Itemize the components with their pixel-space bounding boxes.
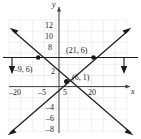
y-tick-neg4: –4 bbox=[46, 104, 54, 112]
coordinate-graph-figure: y x 12 10 8 2 –4 –6 –8 –20 –5 5 20 (–9, … bbox=[0, 0, 141, 139]
x-tick-neg5: –5 bbox=[38, 89, 46, 97]
y-tick-12: 12 bbox=[45, 22, 53, 30]
x-tick-20: 20 bbox=[88, 89, 96, 97]
y-tick-neg6: –6 bbox=[46, 115, 54, 123]
v-right-branch bbox=[8, 28, 132, 135]
y-tick-10: 10 bbox=[45, 33, 53, 41]
point-label-right: (21, 6) bbox=[66, 47, 87, 55]
marker-point-vertex bbox=[64, 79, 69, 84]
y-tick-2: 2 bbox=[51, 68, 55, 76]
x-axis bbox=[9, 85, 130, 89]
point-label-vertex: (6, 1) bbox=[72, 74, 89, 82]
x-tick-neg20: –20 bbox=[9, 89, 21, 97]
y-tick-neg8: –8 bbox=[46, 126, 54, 134]
marker-point-left bbox=[36, 55, 41, 60]
x-axis-label: x bbox=[131, 88, 135, 96]
arrow-down-on-line-right bbox=[122, 58, 127, 73]
x-tick-5: 5 bbox=[63, 89, 67, 97]
point-label-left: (–9, 6) bbox=[11, 66, 32, 74]
marker-point-right bbox=[91, 55, 96, 60]
y-tick-8: 8 bbox=[48, 44, 52, 52]
y-axis-label: y bbox=[52, 1, 56, 9]
